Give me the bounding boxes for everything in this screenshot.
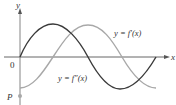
x-axis-arrow-icon (164, 55, 170, 59)
f-prime-label: y = f′(x) (113, 28, 142, 38)
point-p-marker (18, 94, 22, 98)
point-p-label: P (6, 92, 13, 102)
f-double-prime-label: y = f″(x) (57, 73, 87, 83)
x-axis-label: x (170, 52, 175, 62)
origin-label: 0 (10, 60, 15, 70)
y-axis-label: y (15, 0, 20, 10)
derivative-graph: y x 0 P y = f′(x) y = f″(x) (0, 0, 176, 105)
